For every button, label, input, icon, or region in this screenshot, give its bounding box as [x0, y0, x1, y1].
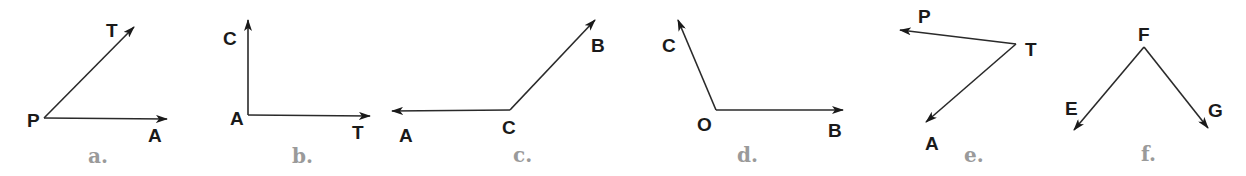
ray-ca-arrow-icon [392, 110, 510, 111]
angle-figure-d: CBOd. [662, 20, 843, 167]
point-label: P [918, 6, 931, 27]
figure-caption: a. [88, 144, 108, 168]
vertex-label: C [502, 117, 516, 138]
point-label: A [148, 125, 162, 146]
angle-diagrams: TAPa.CTAb.ABCc.CBOd.PATe.EGFf. [0, 0, 1246, 176]
vertex-label: P [27, 110, 40, 131]
ray-at-arrow-icon [248, 115, 370, 116]
vertex-label: F [1138, 24, 1150, 45]
figure-caption: e. [964, 143, 984, 167]
figure-caption: f. [1141, 142, 1156, 166]
ray-cb-arrow-icon [510, 20, 595, 110]
point-label: T [106, 20, 118, 41]
ray-fe-arrow-icon [1074, 47, 1144, 130]
point-label: T [352, 122, 364, 143]
ray-fg-arrow-icon [1144, 47, 1208, 128]
angle-figure-e: PATe. [900, 6, 1037, 167]
point-label: E [1065, 98, 1078, 119]
point-label: G [1208, 100, 1223, 121]
ray-pt-arrow-icon [44, 27, 134, 118]
ray-ta-arrow-icon [926, 44, 1016, 122]
ray-oc-arrow-icon [678, 20, 716, 110]
angle-figure-c: ABCc. [392, 20, 605, 167]
point-label: B [591, 35, 605, 56]
ray-tp-arrow-icon [900, 30, 1016, 44]
ray-pa-arrow-icon [44, 118, 167, 119]
vertex-label: T [1025, 39, 1037, 60]
point-label: A [925, 133, 939, 154]
vertex-label: O [697, 114, 712, 135]
vertex-label: A [230, 108, 244, 129]
point-label: C [223, 28, 237, 49]
angle-figure-b: CTAb. [223, 20, 370, 168]
figure-caption: b. [292, 144, 313, 168]
point-label: C [662, 35, 676, 56]
point-label: A [399, 125, 413, 146]
figure-caption: d. [737, 143, 758, 167]
point-label: B [828, 120, 842, 141]
figure-caption: c. [513, 143, 532, 167]
angle-figure-f: EGFf. [1065, 24, 1223, 166]
angle-figure-a: TAPa. [27, 20, 167, 168]
